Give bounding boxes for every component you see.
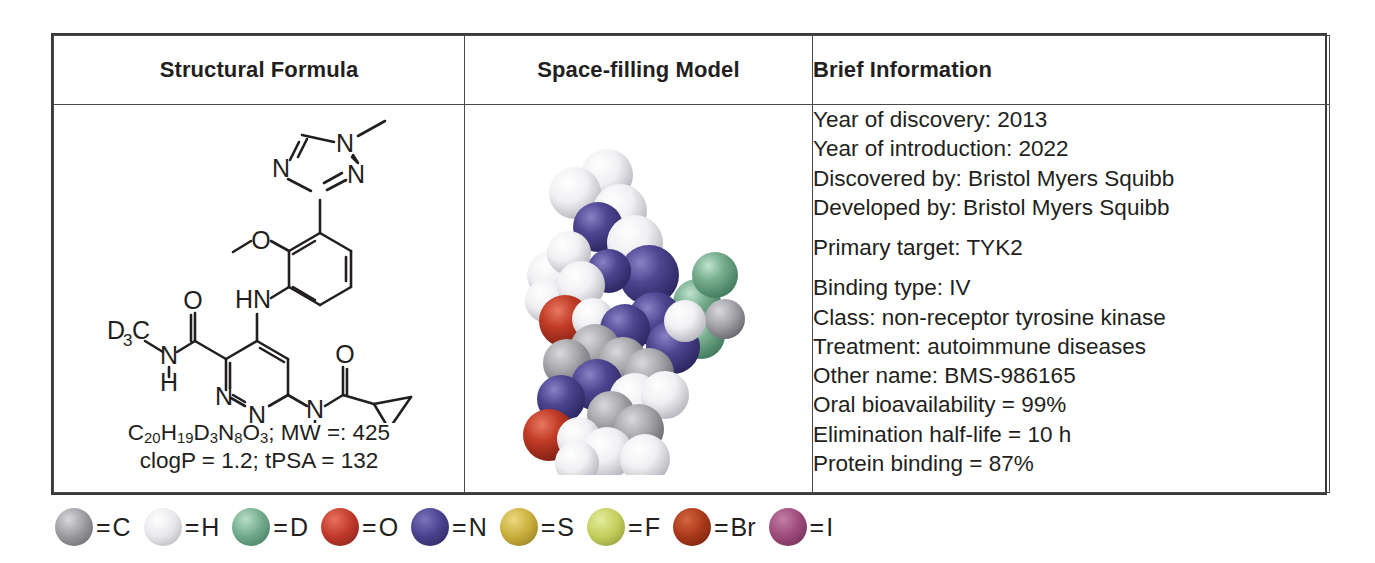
clogp-tpsa-line: clogP = 1.2; tPSA = 132 [54,447,464,474]
legend-sphere-f-icon [587,508,625,546]
label-pyridazine-n2: N [215,382,233,410]
brief-information-cell: Year of discovery: 2013 Year of introduc… [813,105,1330,493]
info-other-name: Other name: BMS-986165 [813,361,1329,390]
legend-item-h: =H [144,508,220,546]
legend-sphere-o-icon [321,508,359,546]
info-class: Class: non-receptor tyrosine kinase [813,303,1329,332]
info-group-target: Primary target: TYK2 [813,233,1329,262]
legend-equals-sign: = [273,513,288,542]
formula-carbon-count: 20 [144,430,161,446]
info-year-of-introduction: Year of introduction: 2022 [813,134,1329,163]
legend-item-br: =Br [673,508,756,546]
label-triazole-n1: N [336,129,354,157]
label-triazole-n2: N [347,160,365,188]
info-developed-by: Developed by: Bristol Myers Squibb [813,193,1329,222]
info-group-properties: Binding type: IV Class: non-receptor tyr… [813,273,1329,478]
formula-oxygen: O [242,420,260,445]
legend-sphere-i-icon [769,508,807,546]
legend-item-s: =S [500,508,574,546]
legend-symbol-c: C [113,513,131,542]
table-row: N N N O HN O N H N N N H O [54,105,1330,493]
formula-deuterium-count: 3 [210,430,218,446]
legend-equals-sign: = [185,513,200,542]
formula-nitrogen: N [218,420,234,445]
atom-color-legend: =C=H=D=O=N=S=F=Br=I [55,503,846,551]
molecular-formula-block: C20H19D3N8O3; MW =: 425 clogP = 1.2; tPS… [54,419,464,475]
formula-deuterium: D [193,420,209,445]
label-amide-hydrogen-left: H [160,368,178,396]
label-triazole-n4: N [272,154,290,182]
legend-sphere-br-icon [673,508,711,546]
legend-item-c: =C [55,508,131,546]
data-table: Structural Formula Space-filling Model B… [53,35,1330,493]
legend-item-d: =D [232,508,308,546]
formula-hydrogen-count: 19 [177,430,194,446]
table-header-row: Structural Formula Space-filling Model B… [54,36,1330,105]
legend-symbol-o: O [379,513,398,542]
legend-item-n: =N [411,508,487,546]
legend-symbol-i: I [826,513,833,542]
legend-sphere-s-icon [500,508,538,546]
structural-formula-cell: N N N O HN O N H N N N H O [54,105,465,493]
legend-equals-sign: = [628,513,643,542]
legend-equals-sign: = [452,513,467,542]
label-amide-oxygen-left: O [183,286,202,314]
molecular-formula-line: C20H19D3N8O3; MW =: 425 [54,419,464,447]
label-aniline-nh: HN [235,285,271,313]
space-filling-model-cell [465,105,813,493]
legend-symbol-n: N [469,513,487,542]
legend-equals-sign: = [714,513,729,542]
legend-symbol-h: H [201,513,219,542]
info-binding-type: Binding type: IV [813,273,1329,302]
legend-symbol-f: F [645,513,660,542]
label-amide-oxygen-right: O [335,340,354,368]
header-space-filling-model: Space-filling Model [465,36,813,105]
legend-equals-sign: = [541,513,556,542]
legend-symbol-s: S [557,513,574,542]
space-filling-model-image [489,123,789,475]
info-discovered-by: Discovered by: Bristol Myers Squibb [813,164,1329,193]
legend-equals-sign: = [810,513,825,542]
legend-equals-sign: = [96,513,111,542]
legend-item-i: =I [769,508,834,546]
legend-symbol-br: Br [731,513,756,542]
legend-sphere-c-icon [55,508,93,546]
legend-item-f: =F [587,508,660,546]
label-methoxy-oxygen: O [251,226,270,254]
legend-symbol-d: D [290,513,308,542]
header-structural-formula: Structural Formula [54,36,465,105]
formula-oxygen-count: 3 [260,430,268,446]
header-brief-information: Brief Information [813,36,1330,105]
legend-sphere-h-icon [144,508,182,546]
info-oral-bioavailability: Oral bioavailability = 99% [813,390,1329,419]
info-protein-binding: Protein binding = 87% [813,449,1329,478]
legend-sphere-n-icon [411,508,449,546]
legend-sphere-d-icon [232,508,270,546]
drug-data-table: Structural Formula Space-filling Model B… [51,33,1327,495]
info-elimination-half-life: Elimination half-life = 10 h [813,420,1329,449]
legend-item-o: =O [321,508,398,546]
label-amide-nitrogen-left: N [160,341,178,369]
formula-carbon: C [128,420,144,445]
chemical-structure-diagram: N N N O HN O N H N N N H O [59,105,459,423]
legend-equals-sign: = [362,513,377,542]
info-treatment: Treatment: autoimmune diseases [813,332,1329,361]
formula-molecular-weight: ; MW =: 425 [268,420,390,445]
info-group-discovery: Year of discovery: 2013 Year of introduc… [813,105,1329,222]
formula-hydrogen: H [161,420,177,445]
label-d3c-c: C [132,316,150,344]
info-primary-target: Primary target: TYK2 [813,233,1329,262]
info-year-of-discovery: Year of discovery: 2013 [813,105,1329,134]
